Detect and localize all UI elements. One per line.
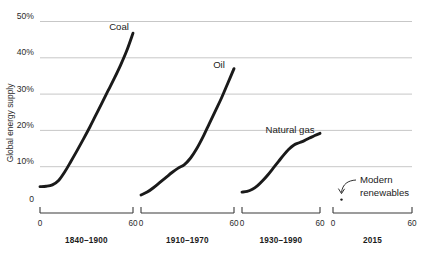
xtick-gas-60: 60 (315, 219, 325, 228)
ytick-label-10: 10% (17, 156, 35, 166)
x-axis-coal (40, 207, 133, 213)
x-axis-renewables (333, 207, 412, 213)
panel-label-oil: 1910–1970 (166, 236, 209, 245)
y-axis-title: Global energy supply (5, 83, 15, 162)
series-label-oil: Oil (213, 59, 225, 70)
x-axis-tick-labels: 0 60 0 60 0 60 0 60 (38, 219, 417, 228)
curve-coal (40, 33, 133, 187)
series-label-natural-gas: Natural gas (265, 124, 314, 135)
xtick-gas-0: 0 (240, 219, 245, 228)
x-axis-oil (141, 207, 234, 213)
renewables-data-point (340, 198, 342, 200)
panel-axes (40, 207, 412, 213)
ytick-label-30: 30% (17, 84, 35, 94)
series-label-coal: Coal (109, 21, 129, 32)
ytick-label-0: 0 (29, 194, 34, 204)
gridlines (40, 22, 412, 167)
y-axis-tick-labels: 50% 40% 30% 20% 10% 0 (17, 11, 35, 204)
ytick-label-50: 50% (17, 11, 35, 21)
ytick-label-20: 20% (17, 120, 35, 130)
chart-container: 50% 40% 30% 20% 10% 0 Global energy supp… (0, 0, 424, 259)
ytick-label-40: 40% (17, 47, 35, 57)
xtick-renew-0: 0 (331, 219, 336, 228)
xtick-renew-60: 60 (407, 219, 417, 228)
xtick-oil-0: 0 (139, 219, 144, 228)
xtick-coal-60: 60 (128, 219, 138, 228)
panel-label-renewables: 2015 (363, 236, 382, 245)
xtick-coal-0: 0 (38, 219, 43, 228)
annotation-label-line2: renewables (360, 187, 409, 198)
panel-labels: 1840–1900 1910–1970 1930–1990 2015 (65, 236, 382, 245)
annotation-label-line1: Modern (360, 174, 393, 185)
modern-renewables-annotation: Modern renewables (338, 174, 409, 201)
curve-oil (141, 69, 234, 195)
panel-label-natural-gas: 1930–1990 (260, 236, 303, 245)
energy-transitions-chart: 50% 40% 30% 20% 10% 0 Global energy supp… (0, 0, 424, 259)
panel-label-coal: 1840–1900 (65, 236, 108, 245)
xtick-oil-60: 60 (229, 219, 239, 228)
x-axis-natural-gas (242, 207, 320, 213)
curve-natural-gas (242, 133, 320, 192)
